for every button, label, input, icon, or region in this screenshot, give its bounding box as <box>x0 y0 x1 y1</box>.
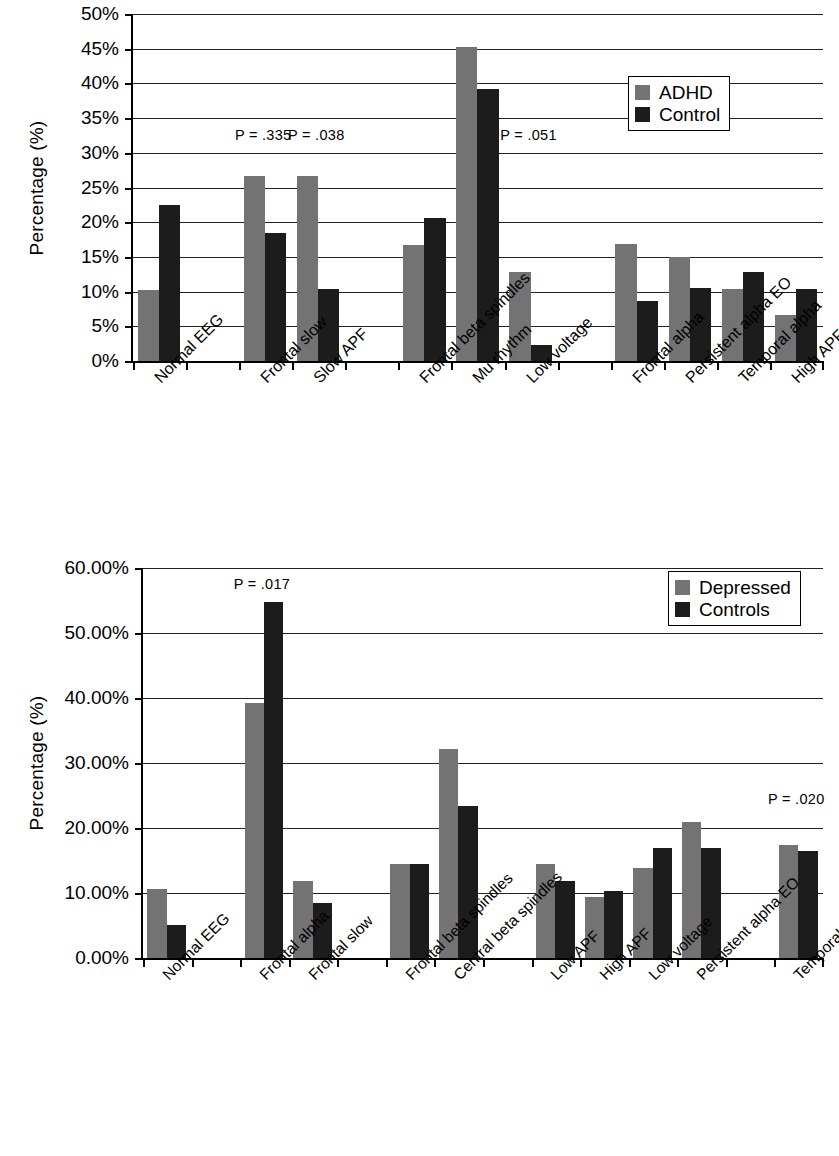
bar-depressed <box>390 864 409 958</box>
y-axis-tick <box>125 326 133 328</box>
y-axis-tick <box>135 893 143 895</box>
legend-item: Control <box>635 103 720 125</box>
y-axis-tick-label: 45% <box>81 38 119 60</box>
bar-controls <box>410 864 429 958</box>
bar-control <box>265 233 286 361</box>
gridline <box>133 49 823 50</box>
gridline <box>143 698 823 699</box>
legend-swatch-icon <box>675 602 690 617</box>
x-axis-tick <box>239 361 241 370</box>
y-axis-tick-label: 0.00% <box>75 947 129 969</box>
bar-depressed <box>245 703 264 958</box>
legend-label: Depressed <box>699 578 791 597</box>
bar-depressed <box>147 889 166 958</box>
x-axis-tick <box>532 958 534 967</box>
bar-adhd <box>138 290 159 361</box>
y-axis-tick <box>125 49 133 51</box>
y-axis-tick <box>125 83 133 85</box>
bar-adhd <box>615 244 636 361</box>
y-axis-tick <box>135 958 143 960</box>
chart-adhd-vs-control: Percentage (%) ADHDControl 0%5%10%15%20%… <box>0 0 839 560</box>
y-axis-tick-label: 30% <box>81 142 119 164</box>
legend-label: ADHD <box>659 83 713 102</box>
y-axis-tick <box>125 14 133 16</box>
y-axis-tick <box>125 222 133 224</box>
y-axis-tick-label: 15% <box>81 246 119 268</box>
x-axis-tick <box>240 958 242 967</box>
y-axis-tick <box>125 153 133 155</box>
x-axis-tick <box>143 958 145 967</box>
y-axis-tick <box>135 633 143 635</box>
y-axis-tick-label: 50% <box>81 3 119 25</box>
y-axis-tick-label: 0% <box>92 350 119 372</box>
x-axis-tick <box>133 361 135 370</box>
y-axis-tick-label: 5% <box>92 315 119 337</box>
y-axis-title: Percentage (%) <box>26 120 48 255</box>
y-axis-tick <box>135 828 143 830</box>
y-axis-tick <box>125 361 133 363</box>
bar-controls <box>798 851 817 958</box>
y-axis-tick-label: 10% <box>81 281 119 303</box>
bar-controls <box>701 848 720 959</box>
p-value-annotation: P = .038 <box>288 127 345 143</box>
bar-control <box>159 205 180 361</box>
y-axis-tick-label: 30.00% <box>65 752 129 774</box>
legend-item: ADHD <box>635 81 720 103</box>
x-axis-tick <box>774 958 776 967</box>
y-axis-title: Percentage (%) <box>26 696 48 831</box>
p-value-annotation: P = .020 <box>768 791 825 807</box>
y-axis-tick-label: 35% <box>81 107 119 129</box>
legend-item: Depressed <box>675 576 791 598</box>
y-axis-tick-label: 20% <box>81 211 119 233</box>
y-axis-tick <box>125 257 133 259</box>
y-axis-tick-label: 60.00% <box>65 557 129 579</box>
y-axis-tick-label: 10.00% <box>65 882 129 904</box>
bar-adhd <box>244 176 265 361</box>
y-axis-tick-label: 40.00% <box>65 687 129 709</box>
legend: DepressedControls <box>668 571 801 626</box>
bar-adhd <box>403 245 424 361</box>
p-value-annotation: P = .051 <box>500 127 557 143</box>
y-axis-tick-label: 50.00% <box>65 622 129 644</box>
figure-root: Percentage (%) ADHDControl 0%5%10%15%20%… <box>0 0 839 1156</box>
chart-depressed-vs-controls: Percentage (%) DepressedControls 0.00%10… <box>0 540 839 1156</box>
x-axis-tick <box>386 958 388 967</box>
legend-label: Controls <box>699 600 770 619</box>
gridline <box>143 633 823 634</box>
y-axis-tick <box>135 698 143 700</box>
legend-swatch-icon <box>635 107 650 122</box>
p-value-annotation: P = .335 <box>235 127 292 143</box>
x-axis-tick <box>398 361 400 370</box>
legend-swatch-icon <box>635 85 650 100</box>
y-axis-tick <box>125 188 133 190</box>
legend: ADHDControl <box>628 76 730 131</box>
x-axis-tick <box>611 361 613 370</box>
y-axis-tick-label: 40% <box>81 72 119 94</box>
bar-control <box>424 218 445 361</box>
legend-label: Control <box>659 105 720 124</box>
bar-controls <box>264 602 283 958</box>
bar-controls <box>653 848 672 959</box>
y-axis-tick <box>135 568 143 570</box>
y-axis-tick-label: 20.00% <box>65 817 129 839</box>
y-axis-tick <box>125 292 133 294</box>
y-axis-tick <box>125 118 133 120</box>
legend-swatch-icon <box>675 580 690 595</box>
p-value-annotation: P = .017 <box>234 576 291 592</box>
plot-area <box>131 14 823 363</box>
gridline <box>143 568 823 569</box>
y-axis-tick-label: 25% <box>81 177 119 199</box>
y-axis-tick <box>135 763 143 765</box>
legend-item: Controls <box>675 598 791 620</box>
gridline <box>133 14 823 15</box>
